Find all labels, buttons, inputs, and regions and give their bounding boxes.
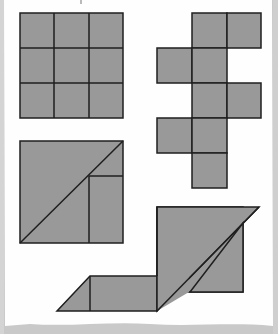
geometry-figures <box>0 0 278 334</box>
diagram-page <box>0 0 278 334</box>
left-shadow <box>0 0 4 334</box>
right-shadow <box>273 0 278 334</box>
grid-3x3-figure <box>20 13 123 118</box>
square-dissection-figure <box>20 141 123 243</box>
